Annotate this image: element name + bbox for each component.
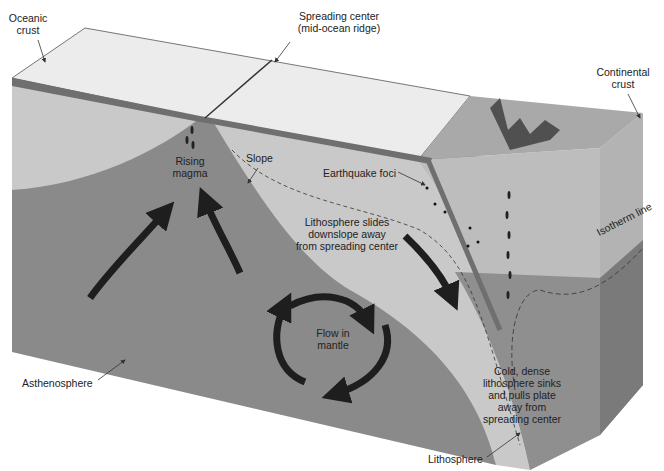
label-oceanic-crust: Oceanic crust [2,12,54,36]
label-continental-crust: Continental crust [588,66,658,90]
label-flow-in-mantle: Flow in mantle [308,327,358,351]
label-asthenosphere: Asthenosphere [22,377,93,389]
label-earthquake-foci: Earthquake foci [323,167,396,179]
label-lithosphere-slides: Lithosphere slides downslope away from s… [292,216,402,252]
label-cold-dense: Cold, dense lithosphere sinks and pulls … [472,365,572,425]
label-lithosphere: Lithosphere [428,453,483,465]
label-slope: Slope [246,152,273,164]
label-rising-magma: Rising magma [168,155,212,179]
label-spreading-center: Spreading center (mid-ocean ridge) [284,10,394,34]
